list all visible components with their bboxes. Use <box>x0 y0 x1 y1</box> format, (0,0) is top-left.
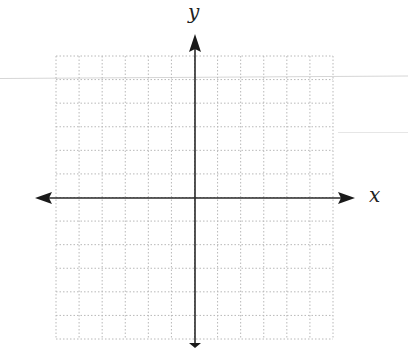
y-axis-label: y <box>188 2 199 22</box>
coordinate-plane <box>0 0 408 348</box>
y-axis <box>189 34 201 348</box>
x-axis-label: x <box>369 185 380 205</box>
y-axis-down-arrow-icon <box>189 343 201 348</box>
